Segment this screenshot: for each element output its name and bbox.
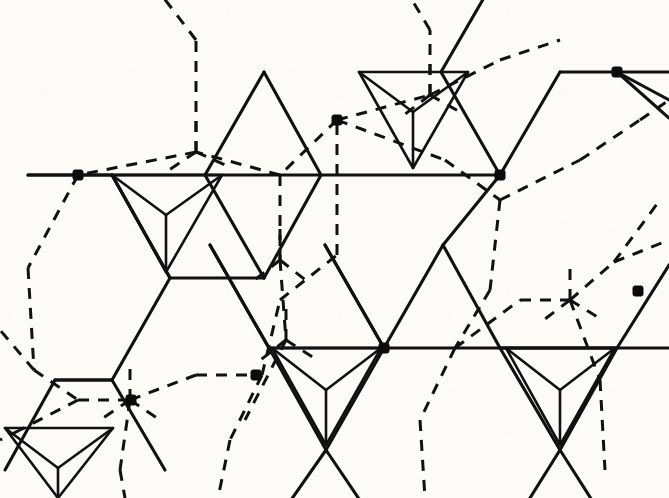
figure-background	[0, 0, 669, 498]
node-mid-right	[495, 170, 505, 180]
node-mid-left	[251, 370, 261, 380]
node-lower-left	[126, 395, 136, 405]
lattice-figure	[0, 0, 669, 498]
node-left	[73, 170, 83, 180]
lattice-diagram-svg	[0, 0, 669, 498]
node-lower-right	[633, 286, 643, 296]
node-center	[379, 343, 389, 353]
node-upper-right	[612, 67, 622, 77]
node-upper-center	[332, 115, 342, 125]
